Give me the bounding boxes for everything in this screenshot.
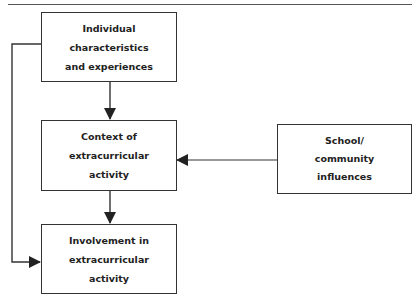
- node-label-line: Individual: [82, 19, 135, 38]
- node-label-line: School/: [325, 132, 364, 150]
- node-individual-characteristics: Individual characteristics and experienc…: [41, 12, 177, 82]
- node-involvement-in-activity: Involvement in extracurricular activity: [41, 224, 177, 294]
- node-school-community-influences: School/ community influences: [277, 124, 412, 194]
- node-label-line: activity: [89, 269, 129, 288]
- node-label-line: activity: [89, 165, 129, 184]
- edge-individual-to-involvement: [12, 44, 41, 262]
- node-label-line: and experiences: [65, 57, 153, 76]
- node-label-line: characteristics: [69, 38, 148, 57]
- node-label-line: community: [315, 150, 374, 168]
- node-context-of-activity: Context of extracurricular activity: [41, 120, 177, 191]
- node-label-line: extracurricular: [69, 250, 149, 269]
- node-label-line: influences: [317, 168, 372, 186]
- node-label-line: Involvement in: [69, 231, 149, 250]
- node-label-line: Context of: [81, 127, 137, 146]
- node-label-line: extracurricular: [69, 146, 149, 165]
